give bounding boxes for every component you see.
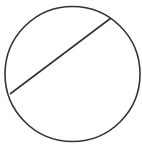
circle (5, 7, 140, 142)
circle-chord-diagram (0, 0, 142, 152)
chord (10, 18, 111, 94)
